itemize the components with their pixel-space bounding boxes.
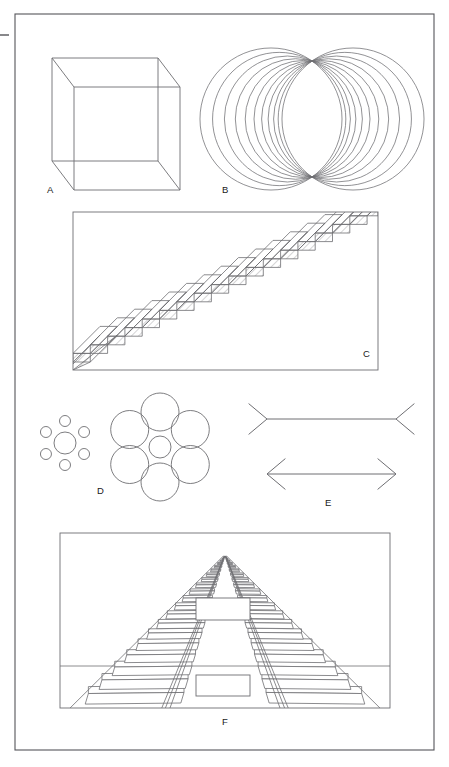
stair-riser xyxy=(194,293,211,302)
figure-label-f: F xyxy=(222,716,228,727)
illusions-plate: A B C D E F xyxy=(0,0,449,767)
figure-label-c: C xyxy=(363,348,370,359)
figure-label-d: D xyxy=(97,485,104,496)
stair-riser xyxy=(263,259,280,268)
ponzo-test-bar-upper xyxy=(196,598,250,620)
figure-label-e: E xyxy=(325,497,331,508)
stair-riser xyxy=(246,267,263,276)
figure-label-b: B xyxy=(222,184,228,195)
stair-riser xyxy=(177,302,194,311)
stair-riser xyxy=(125,328,142,337)
plate-canvas: A B C D E F xyxy=(0,0,449,767)
stair-riser xyxy=(333,224,350,233)
stair-riser xyxy=(229,276,246,285)
stair-riser xyxy=(142,319,159,328)
stair-riser xyxy=(298,242,315,251)
stair-riser xyxy=(160,310,177,319)
stair-riser xyxy=(315,233,332,242)
stair-riser xyxy=(281,250,298,259)
ponzo-test-bar-lower xyxy=(196,675,250,696)
stair-riser xyxy=(350,216,367,225)
figure-label-a: A xyxy=(47,184,54,195)
stair-riser xyxy=(211,285,228,294)
